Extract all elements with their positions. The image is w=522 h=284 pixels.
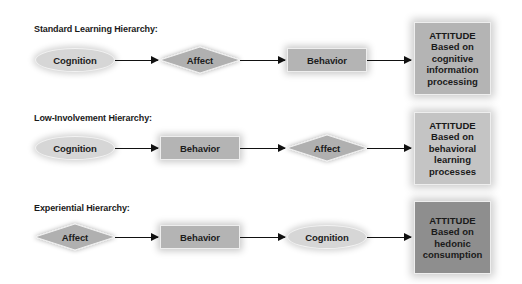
node-label: Cognition [305,232,348,243]
hierarchy-title: Low-Involvement Hierarchy: [34,113,152,123]
node-label: Cognition [53,55,96,66]
attitude-description-line: processing [427,76,478,88]
attitude-description-line: consumption [423,249,483,261]
node-label: Affect [187,55,213,66]
attitude-title: ATTITUDE [429,215,475,227]
node-label: Behavior [180,143,220,154]
hierarchy-title: Standard Learning Hierarchy: [34,24,158,34]
arrow [115,60,158,61]
attitude-description-line: Based on [431,131,474,143]
attitude-title: ATTITUDE [429,30,475,42]
node-label: Affect [62,232,88,243]
ellipse-node-cognition: Cognition [35,48,115,72]
attitude-description-line: Based on [431,41,474,53]
node-label: Cognition [53,143,96,154]
rect-node-behavior: Behavior [160,136,240,160]
attitude-box: ATTITUDEBased onbehaviorallearningproces… [414,112,491,185]
attitude-description-line: learning [434,154,471,166]
arrow [240,148,285,149]
attitude-description-line: hedonic [434,238,470,250]
attitude-box: ATTITUDEBased oncognitiveinformationproc… [414,22,491,95]
arrow [240,60,285,61]
attitude-title: ATTITUDE [429,120,475,132]
diamond-node-affect: Affect [35,224,115,250]
hierarchy-title: Experiential Hierarchy: [34,203,130,213]
ellipse-node-cognition: Cognition [35,136,115,160]
attitude-description-line: information [426,64,478,76]
arrow [367,60,411,61]
arrow [240,237,285,238]
node-label: Affect [314,143,340,154]
arrow [115,148,158,149]
node-label: Behavior [180,232,220,243]
attitude-description-line: Based on [431,226,474,238]
arrow [367,237,411,238]
ellipse-node-cognition: Cognition [287,225,367,249]
node-label: Behavior [307,55,347,66]
diamond-node-affect: Affect [287,135,367,161]
diamond-node-affect: Affect [160,47,240,73]
attitude-description-line: processes [429,166,476,178]
attitude-description-line: cognitive [432,53,474,65]
attitude-box: ATTITUDEBased onhedonicconsumption [414,201,491,274]
arrow [115,237,158,238]
rect-node-behavior: Behavior [160,225,240,249]
rect-node-behavior: Behavior [287,48,367,72]
arrow [367,148,411,149]
attitude-description-line: behavioral [429,143,477,155]
